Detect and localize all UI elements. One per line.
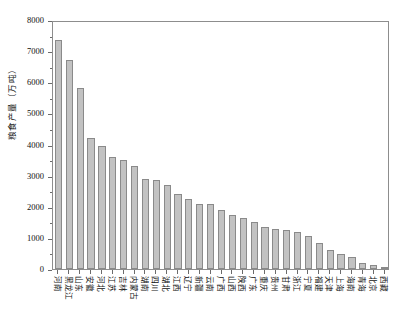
x-axis-tick-label: 天津: [324, 276, 332, 292]
x-axis-tick-label: 江苏: [107, 276, 115, 292]
x-axis-tick-mark: [297, 270, 298, 274]
x-axis-tick-mark: [362, 270, 363, 274]
x-axis-tick-label: 上海: [335, 276, 343, 292]
x-axis-tick-mark: [221, 270, 222, 274]
x-axis-tick-mark: [264, 270, 265, 274]
x-axis-tick-mark: [210, 270, 211, 274]
y-axis-tick-label: 2000: [27, 202, 44, 212]
x-axis-tick-mark: [155, 270, 156, 274]
x-axis-tick-label: 云南: [205, 276, 213, 292]
x-axis-tick-label: 河北: [96, 276, 104, 292]
x-axis-tick-mark: [242, 270, 243, 274]
bar: [131, 166, 138, 269]
bar: [348, 257, 355, 269]
x-axis-tick-label: 河南: [53, 276, 61, 292]
x-axis-tick-mark: [351, 270, 352, 274]
bar: [185, 199, 192, 269]
x-axis-tick-label: 广西: [216, 276, 224, 292]
x-axis-tick-mark: [373, 270, 374, 274]
bar: [229, 215, 236, 269]
bar: [164, 185, 171, 269]
bar: [370, 265, 377, 269]
bar: [359, 263, 366, 269]
x-axis-tick-label: 陕西: [237, 276, 245, 292]
bar: [120, 160, 127, 269]
x-axis-tick-mark: [144, 270, 145, 274]
bar: [87, 138, 94, 269]
x-axis-tick-mark: [307, 270, 308, 274]
x-axis-tick-label: 重庆: [259, 276, 267, 292]
x-axis-tick-label: 宁夏: [303, 276, 311, 292]
bar: [142, 179, 149, 269]
x-axis-tick-mark: [188, 270, 189, 274]
x-axis-tick-mark: [90, 270, 91, 274]
x-axis-tick-label: 青海: [357, 276, 365, 292]
bar: [283, 230, 290, 269]
bar: [98, 146, 105, 269]
x-axis-tick-mark: [384, 270, 385, 274]
x-axis-tick-mark: [101, 270, 102, 274]
bar: [174, 194, 181, 269]
bar: [337, 254, 344, 269]
x-axis-tick-label: 吉林: [118, 276, 126, 292]
x-axis-tick-mark: [318, 270, 319, 274]
x-axis-tick-mark: [112, 270, 113, 274]
bar: [109, 157, 116, 269]
x-axis-tick-label: 湖北: [161, 276, 169, 292]
chart-root: 粮食产量（万吨） 0100020003000400050006000700080…: [0, 0, 402, 336]
plot-area: [52, 21, 389, 270]
x-axis-tick-label: 贵州: [270, 276, 278, 292]
x-axis-tick-mark: [286, 270, 287, 274]
x-axis-tick-label: 辽宁: [183, 276, 191, 292]
y-axis-title: 粮食产量（万吨）: [5, 47, 17, 157]
bar: [294, 232, 301, 269]
bar: [207, 204, 214, 269]
y-axis-tick-label: 6000: [27, 77, 44, 87]
x-axis-tick-mark: [253, 270, 254, 274]
x-axis-tick-mark: [329, 270, 330, 274]
x-axis-tick-label: 江西: [172, 276, 180, 292]
x-axis-tick-label: 海南: [346, 276, 354, 292]
x-axis-tick-label: 甘肃: [281, 276, 289, 292]
x-axis-tick-label: 山西: [227, 276, 235, 292]
bar: [77, 88, 84, 269]
bar: [240, 218, 247, 269]
x-axis-tick-mark: [231, 270, 232, 274]
x-axis-tick-mark: [177, 270, 178, 274]
x-axis-tick-mark: [275, 270, 276, 274]
y-axis-tick-label: 7000: [27, 46, 44, 56]
x-axis-tick-label: 浙江: [292, 276, 300, 292]
x-axis-tick-label: 安徽: [85, 276, 93, 292]
bar: [327, 250, 334, 269]
x-axis-tick-mark: [340, 270, 341, 274]
y-axis-tick-label: 4000: [27, 140, 44, 150]
x-axis-tick-label: 广东: [248, 276, 256, 292]
bar: [55, 40, 62, 269]
bar: [153, 180, 160, 269]
bar: [261, 227, 268, 269]
x-axis-tick-mark: [199, 270, 200, 274]
x-axis-tick-label: 北京: [368, 276, 376, 292]
y-axis-tick-label: 0: [40, 264, 44, 274]
x-axis-tick-label: 湖南: [140, 276, 148, 292]
bar-series: [53, 22, 388, 269]
x-axis-tick-label: 新疆: [194, 276, 202, 292]
y-axis-tick-mark: [48, 270, 52, 271]
bar: [305, 236, 312, 269]
x-axis-tick-mark: [134, 270, 135, 274]
y-axis-tick-label: 8000: [27, 15, 44, 25]
x-axis-tick-label: 黑龙江: [64, 276, 72, 300]
y-axis-tick-label: 1000: [27, 233, 44, 243]
x-axis-tick-mark: [57, 270, 58, 274]
x-axis-tick-mark: [79, 270, 80, 274]
bar: [218, 210, 225, 269]
bar: [196, 204, 203, 269]
y-axis-tick-label: 3000: [27, 171, 44, 181]
bar: [381, 267, 388, 269]
x-axis-tick-label: 内蒙古: [129, 276, 137, 300]
x-axis-tick-mark: [123, 270, 124, 274]
bar: [251, 222, 258, 269]
x-axis-tick-label: 西藏: [379, 276, 387, 292]
x-axis-tick-mark: [68, 270, 69, 274]
bar: [272, 229, 279, 269]
